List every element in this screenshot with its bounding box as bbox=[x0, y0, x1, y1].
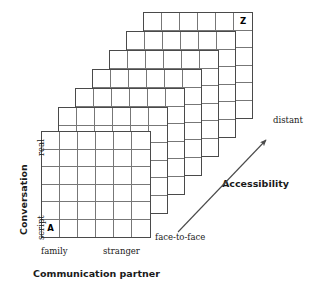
grid-cell bbox=[166, 177, 184, 195]
grid-cell bbox=[132, 220, 150, 238]
grid-cell bbox=[234, 83, 252, 101]
grid-cell bbox=[60, 150, 78, 168]
grid-cell bbox=[234, 66, 252, 84]
grid-cell bbox=[94, 89, 112, 107]
diagram-canvas: Z A Conversation real script family stra… bbox=[0, 0, 313, 290]
grid-cell bbox=[147, 70, 165, 88]
grid-cell bbox=[217, 120, 235, 138]
grid-cell bbox=[149, 178, 167, 196]
grid-cell bbox=[166, 89, 184, 107]
grid-cell bbox=[149, 126, 167, 144]
grid-cell bbox=[78, 220, 96, 238]
grid-cell bbox=[128, 51, 146, 69]
grid-cell bbox=[199, 32, 217, 50]
grid-cell bbox=[149, 108, 167, 126]
grid-cell bbox=[165, 70, 183, 88]
grid-cell: Z bbox=[234, 13, 252, 31]
grid-cell bbox=[114, 220, 132, 238]
grid-cell bbox=[216, 13, 234, 31]
grid-cell bbox=[42, 185, 60, 203]
grid-cell bbox=[93, 70, 111, 88]
grid-cell bbox=[112, 89, 130, 107]
grid-cell bbox=[183, 105, 201, 123]
grid-cell bbox=[96, 167, 114, 185]
grid-cell bbox=[200, 104, 218, 122]
grid-cell bbox=[149, 143, 167, 161]
grid-cell bbox=[181, 32, 199, 50]
grid-cell bbox=[78, 132, 96, 150]
grid-cell bbox=[217, 67, 235, 85]
grid-cell bbox=[200, 121, 218, 139]
grid-cell bbox=[200, 51, 218, 69]
grid-cell bbox=[78, 202, 96, 220]
grid-cell bbox=[166, 107, 184, 125]
grid-cell bbox=[132, 185, 150, 203]
grid-cell bbox=[111, 70, 129, 88]
grid-cell bbox=[132, 150, 150, 168]
grid-cell bbox=[217, 50, 235, 68]
grid-cell bbox=[146, 51, 164, 69]
grid-cell bbox=[144, 13, 162, 31]
grid-cell bbox=[217, 102, 235, 120]
grid-cell bbox=[96, 202, 114, 220]
grid-cell bbox=[234, 31, 252, 49]
grid-cell bbox=[127, 32, 145, 50]
grid-cell bbox=[76, 89, 94, 107]
grid-cell bbox=[166, 142, 184, 160]
grid-cell bbox=[234, 101, 252, 119]
grid-cell bbox=[60, 220, 78, 238]
grid-cell bbox=[132, 202, 150, 220]
grid-cell bbox=[96, 220, 114, 238]
grid-cell bbox=[95, 108, 113, 126]
grid-cell bbox=[132, 132, 150, 150]
grid-cell bbox=[180, 13, 198, 31]
axis-tick-stranger: stranger bbox=[103, 246, 140, 256]
grid-cell bbox=[42, 167, 60, 185]
grid-cell bbox=[114, 150, 132, 168]
grid-cell bbox=[166, 159, 184, 177]
grid-cell bbox=[60, 167, 78, 185]
cell-marker-z: Z bbox=[234, 13, 252, 30]
grid-cell bbox=[200, 139, 218, 157]
axis-tick-face-to-face: face-to-face bbox=[155, 232, 205, 242]
grid-cell bbox=[78, 167, 96, 185]
grid-cell bbox=[129, 70, 147, 88]
grid-cell bbox=[77, 108, 95, 126]
grid-cell bbox=[183, 158, 201, 176]
grid-cell bbox=[183, 140, 201, 158]
grid-cell bbox=[182, 51, 200, 69]
grid-cell bbox=[164, 51, 182, 69]
grid-cell bbox=[78, 150, 96, 168]
grid-plane-front: A bbox=[41, 131, 151, 238]
grid-cell bbox=[59, 108, 77, 126]
grid-cell bbox=[113, 108, 131, 126]
grid-cell bbox=[200, 86, 218, 104]
grid-cell bbox=[183, 70, 201, 88]
axis-title-communication-partner: Communication partner bbox=[33, 268, 160, 279]
grid-cell bbox=[148, 89, 166, 107]
grid-cell bbox=[149, 196, 167, 214]
grid-cell bbox=[96, 185, 114, 203]
grid-cell bbox=[162, 13, 180, 31]
axis-tick-script: script bbox=[36, 215, 46, 240]
grid-cell bbox=[96, 132, 114, 150]
grid-cell bbox=[60, 132, 78, 150]
grid-cell bbox=[198, 13, 216, 31]
grid-cell bbox=[60, 202, 78, 220]
grid-cell bbox=[60, 185, 78, 203]
axis-title-conversation: Conversation bbox=[18, 164, 29, 235]
grid-cell bbox=[145, 32, 163, 50]
grid-cell bbox=[163, 32, 181, 50]
grid-cell bbox=[130, 89, 148, 107]
grid-cell bbox=[183, 88, 201, 106]
grid-cell bbox=[234, 48, 252, 66]
grid-cell bbox=[114, 185, 132, 203]
grid-cell bbox=[149, 161, 167, 179]
grid-cell bbox=[131, 108, 149, 126]
grid-cell bbox=[114, 167, 132, 185]
grid-cell bbox=[114, 132, 132, 150]
grid-cell bbox=[183, 123, 201, 141]
grid-cell bbox=[78, 185, 96, 203]
axis-title-accessibility: Accessibility bbox=[222, 178, 289, 189]
axis-tick-family: family bbox=[41, 246, 68, 256]
